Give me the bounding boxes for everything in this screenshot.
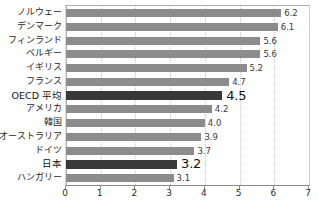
bar-chart: ノルウェー6.2デンマーク6.1フィンランド5.6ベルギー5.6イギリス5.2フ… [0,0,319,210]
category-label: イギリス [26,61,62,75]
category-label: ベルギー [26,47,62,61]
gridline-7 [309,6,310,185]
bar-row: ハンガリー3.1 [66,171,309,185]
x-tick-label: 5 [236,188,242,198]
x-tick-label: 6 [270,188,276,198]
category-label: 日本 [42,157,62,171]
value-label: 6.2 [281,6,298,20]
category-label: フィンランド [8,34,62,48]
value-label: 3.1 [174,171,191,185]
x-tick-label: 3 [166,188,172,198]
bar [66,78,229,86]
value-label: 5.6 [260,34,277,48]
bar [66,133,201,141]
value-label: 5.2 [247,61,264,75]
bar [66,37,260,45]
bar-row: 韓国4.0 [66,116,309,130]
value-label: 3.2 [177,157,201,171]
bar-row: 日本3.2 [66,157,309,171]
bar [66,119,205,127]
value-label: 4.0 [205,116,222,130]
category-label: オーストラリア [0,130,62,144]
bar-row: ノルウェー6.2 [66,6,309,20]
bar-rows: ノルウェー6.2デンマーク6.1フィンランド5.6ベルギー5.6イギリス5.2フ… [66,6,309,185]
bar [66,23,278,31]
category-label: 韓国 [44,116,62,130]
bar-row: フランス4.7 [66,75,309,89]
bar-row: デンマーク6.1 [66,20,309,34]
bar-row: OECD 平均4.5 [66,89,309,103]
value-label: 3.9 [201,130,218,144]
category-label: ノルウェー [17,6,62,20]
bar [66,174,174,182]
x-tick-label: 7 [305,188,311,198]
category-label: OECD 平均 [12,89,62,103]
x-axis: 01234567 [65,187,310,207]
bar [66,160,177,169]
bar-row: フィンランド5.6 [66,34,309,48]
value-label: 6.1 [278,20,295,34]
bar [66,91,222,100]
bar-row: イギリス5.2 [66,61,309,75]
x-tick-label: 4 [201,188,207,198]
x-tick-label: 2 [132,188,138,198]
bar [66,9,281,17]
bar-row: ドイツ3.7 [66,144,309,158]
bar [66,50,260,58]
value-label: 4.7 [229,75,246,89]
category-label: フランス [26,75,62,89]
x-tick-label: 0 [62,188,68,198]
bar-row: ベルギー5.6 [66,47,309,61]
x-tick-label: 1 [97,188,103,198]
bar-row: アメリカ4.2 [66,102,309,116]
category-label: アメリカ [26,102,62,116]
value-label: 4.5 [222,89,246,103]
category-label: ハンガリー [17,171,62,185]
value-label: 3.7 [194,144,211,158]
bar [66,64,247,72]
bar [66,105,212,113]
category-label: ドイツ [35,144,62,158]
category-label: デンマーク [17,20,62,34]
value-label: 5.6 [260,47,277,61]
value-label: 4.2 [212,102,229,116]
bar-row: オーストラリア3.9 [66,130,309,144]
plot-area: ノルウェー6.2デンマーク6.1フィンランド5.6ベルギー5.6イギリス5.2フ… [65,5,310,186]
bar [66,147,194,155]
